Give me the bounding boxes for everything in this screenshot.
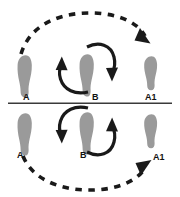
bottom-left-arrowhead-down (56, 130, 68, 144)
bottom-footprint-B (80, 112, 94, 154)
label-bottom-A: A (17, 151, 24, 160)
top-footprint-A1 (144, 56, 157, 90)
label-top-B: B (92, 93, 99, 102)
top-left-arrowhead-up (56, 57, 68, 71)
bottom-right-arrowhead-up (106, 118, 118, 132)
bottom-dashed-arc (23, 156, 152, 190)
top-dashed-arc (21, 13, 151, 54)
label-top-A1: A1 (145, 93, 157, 102)
top-footprint-B (80, 54, 94, 96)
footstep-rotation-diagram: A B A1 A B A1 (0, 0, 180, 197)
bottom-footprint-A1 (144, 114, 157, 148)
top-dashed-arrowhead (135, 28, 151, 44)
label-bottom-A1: A1 (153, 153, 165, 162)
label-bottom-B: B (80, 151, 87, 160)
label-top-A: A (23, 93, 30, 102)
top-right-arrowhead-down (106, 68, 118, 82)
